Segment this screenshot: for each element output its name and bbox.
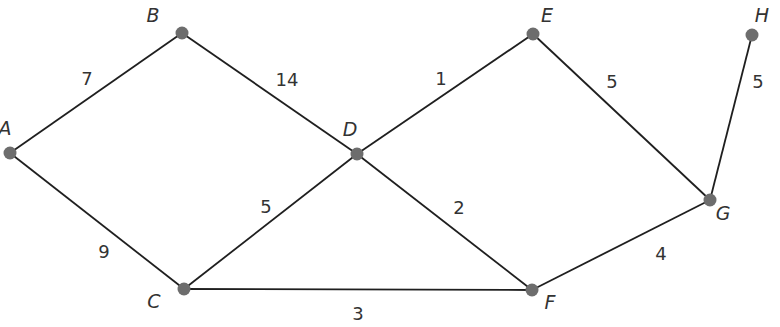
edge-weight-d-e: 1: [435, 68, 446, 89]
edge-a-b: [10, 33, 182, 153]
edge-weight-f-g: 4: [655, 243, 666, 264]
edge-b-d: [182, 33, 357, 154]
edge-weight-a-b: 7: [81, 68, 92, 89]
edge-a-c: [10, 153, 184, 289]
edge-weight-b-d: 14: [276, 69, 299, 90]
node-b: [176, 27, 189, 40]
edge-weight-g-h: 5: [752, 71, 763, 92]
node-a: [4, 147, 17, 160]
edge-d-f: [357, 154, 532, 290]
edge-weight-c-d: 5: [260, 196, 271, 217]
node-h: [746, 29, 759, 42]
node-labels-layer: ABCDEFGH: [0, 4, 769, 313]
edge-weight-a-c: 9: [98, 241, 109, 262]
node-f: [526, 284, 539, 297]
node-label-a: A: [0, 117, 12, 139]
node-label-c: C: [147, 290, 161, 312]
edge-c-f: [184, 289, 532, 290]
node-label-b: B: [146, 4, 159, 26]
node-label-g: G: [716, 202, 731, 224]
edge-weight-c-f: 3: [352, 303, 363, 324]
weighted-graph-diagram: 71495123545 ABCDEFGH: [0, 0, 780, 327]
edge-c-d: [184, 154, 357, 289]
node-g: [704, 194, 717, 207]
node-label-d: D: [343, 118, 358, 140]
node-label-e: E: [541, 4, 553, 26]
node-label-h: H: [755, 4, 769, 26]
edge-weight-e-g: 5: [606, 71, 617, 92]
graph-svg: 71495123545 ABCDEFGH: [0, 0, 780, 327]
nodes-layer: [4, 27, 759, 297]
edges-layer: [10, 33, 752, 290]
node-label-f: F: [545, 291, 557, 313]
node-c: [178, 283, 191, 296]
edge-f-g: [532, 200, 710, 290]
edge-g-h: [710, 35, 752, 200]
edge-e-g: [533, 34, 710, 200]
node-e: [527, 28, 540, 41]
edge-weight-d-f: 2: [453, 197, 464, 218]
edge-d-e: [357, 34, 533, 154]
node-d: [351, 148, 364, 161]
